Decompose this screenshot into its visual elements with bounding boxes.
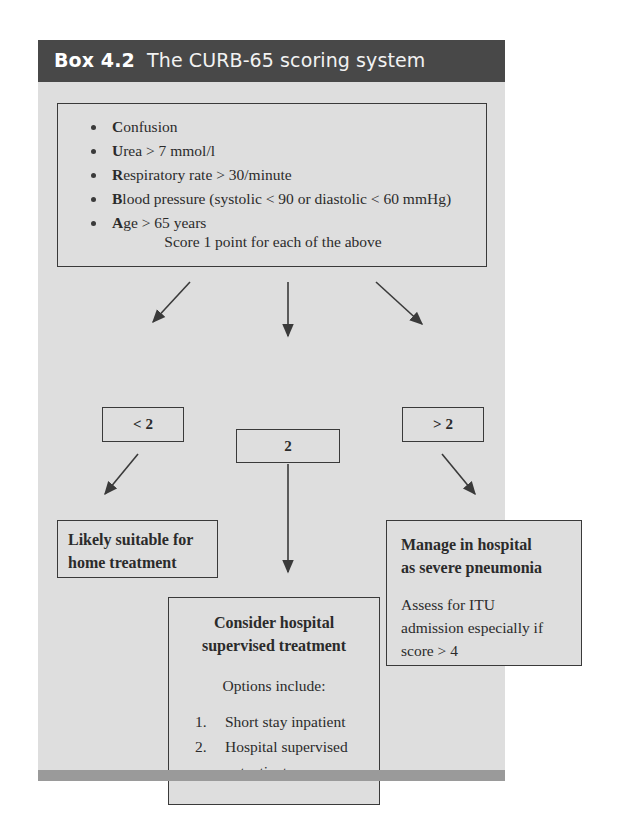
score-box-low: < 2	[102, 407, 184, 442]
consider-head-1: Consider hospital	[169, 611, 379, 634]
arrow-high-to-hospital	[442, 454, 475, 494]
outcome-box-hospital: Manage in hospital as severe pneumonia A…	[386, 520, 582, 666]
arrow-to-low	[153, 282, 190, 322]
criteria-text: ge > 65 years	[123, 214, 206, 231]
score-note: Score 1 point for each of the above	[58, 233, 488, 251]
criteria-initial: C	[112, 118, 123, 135]
criteria-item: Blood pressure (systolic < 90 or diastol…	[86, 187, 451, 211]
option-line-1: Short stay inpatient	[225, 709, 379, 734]
criteria-item: Respiratory rate > 30/minute	[86, 163, 451, 187]
box-panel: Box 4.2 The CURB-65 scoring system	[38, 40, 505, 782]
criteria-text: espiratory rate > 30/minute	[123, 166, 291, 183]
criteria-box: Confusion Urea > 7 mmol/l Respiratory ra…	[57, 103, 487, 267]
criteria-initial: R	[112, 166, 123, 183]
home-line-1: Likely suitable for	[68, 528, 217, 551]
option-line-1: Hospital supervised	[225, 734, 379, 759]
criteria-text: onfusion	[123, 118, 177, 135]
criteria-item: Confusion	[86, 115, 451, 139]
box-header-title: Box 4.2 The CURB-65 scoring system	[54, 49, 425, 71]
option-number: 2.	[195, 734, 207, 759]
box-footer-bar	[38, 770, 505, 781]
criteria-initial: B	[112, 190, 122, 207]
hospital-body-3: score > 4	[401, 639, 581, 662]
consider-option-item: 1. Short stay inpatient	[169, 709, 379, 734]
hospital-body-1: Assess for ITU	[401, 593, 581, 616]
score-box-mid: 2	[236, 429, 340, 463]
box-body: Confusion Urea > 7 mmol/l Respiratory ra…	[38, 82, 505, 770]
home-line-2: home treatment	[68, 551, 217, 574]
criteria-initial: A	[112, 214, 123, 231]
figure-root: Box 4.2 The CURB-65 scoring system	[0, 0, 627, 816]
box-number: Box 4.2	[54, 49, 135, 71]
score-box-high: > 2	[402, 407, 484, 442]
outcome-box-home: Likely suitable for home treatment	[57, 520, 218, 578]
score-box-mid-label: 2	[237, 430, 339, 462]
arrow-to-high	[376, 282, 422, 324]
hospital-head-1: Manage in hospital	[401, 533, 581, 556]
criteria-initial: U	[112, 142, 123, 159]
box-header: Box 4.2 The CURB-65 scoring system	[38, 40, 505, 82]
criteria-item: Urea > 7 mmol/l	[86, 139, 451, 163]
consider-head-2: supervised treatment	[169, 634, 379, 657]
hospital-body-2: admission especially if	[401, 616, 581, 639]
criteria-text: rea > 7 mmol/l	[123, 142, 215, 159]
score-box-high-label: > 2	[403, 408, 483, 441]
criteria-item: Age > 65 years	[86, 211, 451, 235]
hospital-head-2: as severe pneumonia	[401, 556, 581, 579]
arrow-low-to-home	[105, 454, 138, 494]
consider-options-label: Options include:	[169, 677, 379, 695]
option-number: 1.	[195, 709, 207, 734]
criteria-list: Confusion Urea > 7 mmol/l Respiratory ra…	[86, 115, 451, 235]
score-box-low-label: < 2	[103, 408, 183, 441]
box-title-text: The CURB-65 scoring system	[147, 49, 425, 71]
criteria-text: lood pressure (systolic < 90 or diastoli…	[122, 190, 451, 207]
